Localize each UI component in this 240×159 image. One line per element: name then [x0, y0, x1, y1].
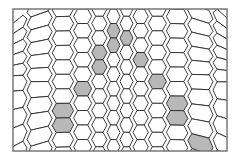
lattice-cell	[120, 103, 133, 118]
lattice-cell	[74, 96, 92, 111]
lattice-cell	[74, 125, 92, 140]
lattice-cell	[133, 0, 148, 9]
lattice-cell	[107, 125, 120, 140]
lattice-cell	[120, 16, 133, 31]
lattice-cell	[27, 67, 52, 81]
lattice-cells	[0, 0, 240, 159]
lattice-cell	[107, 9, 120, 24]
lattice-cell	[166, 53, 187, 68]
shaded-cell	[166, 96, 187, 111]
lattice-cell	[148, 89, 166, 104]
lattice-cell	[92, 147, 107, 159]
lattice-cell	[148, 31, 166, 46]
lattice-cell	[92, 103, 107, 118]
lattice-cell	[166, 140, 187, 155]
lattice-cell	[74, 53, 92, 68]
lattice-cell	[74, 67, 92, 82]
lattice-cell	[120, 147, 133, 159]
shaded-cell	[92, 45, 107, 60]
lattice-cell	[133, 125, 148, 140]
lattice-cell	[92, 132, 107, 147]
lattice-cell	[166, 67, 187, 82]
lattice-cell	[166, 125, 187, 140]
shaded-cell	[107, 38, 120, 53]
lattice-cell	[107, 67, 120, 82]
lattice-cell	[107, 53, 120, 68]
lattice-cell	[74, 9, 92, 24]
shaded-cell	[148, 74, 166, 89]
lattice-cell	[107, 82, 120, 97]
lattice-cell	[107, 154, 120, 159]
lattice-cell	[52, 45, 73, 60]
lattice-cell	[0, 158, 27, 159]
shaded-cell	[52, 103, 73, 118]
lattice-cell	[92, 118, 107, 133]
lattice-cell	[188, 60, 213, 75]
lattice-cell	[133, 82, 148, 97]
lattice-cell	[52, 16, 73, 31]
lattice-cell	[148, 147, 166, 159]
lattice-cell	[52, 132, 73, 147]
lattice-cell	[133, 96, 148, 111]
lattice-cell	[52, 147, 73, 159]
shaded-cell	[107, 24, 120, 39]
lattice-cell	[133, 140, 148, 155]
lattice-cell	[133, 67, 148, 82]
lattice-cell	[166, 154, 187, 159]
lattice-cell	[107, 96, 120, 111]
shaded-cell	[92, 60, 107, 75]
lattice-cell	[148, 118, 166, 133]
lattice-cell	[74, 38, 92, 53]
lattice-cell	[120, 89, 133, 104]
lattice-cell	[52, 74, 73, 89]
lattice-cell	[133, 154, 148, 159]
lattice-cell	[52, 89, 73, 104]
lattice-cell	[27, 53, 52, 68]
lattice-cell	[120, 45, 133, 60]
lattice-cell	[92, 31, 107, 46]
lattice-cell	[120, 74, 133, 89]
lattice-cell	[166, 38, 187, 53]
lattice-cell	[166, 24, 187, 39]
lattice-cell	[133, 9, 148, 24]
lattice-cell	[27, 156, 52, 159]
lattice-diagram	[0, 0, 240, 159]
lattice-cell	[133, 38, 148, 53]
shaded-cell	[74, 82, 92, 97]
lattice-cell	[74, 0, 92, 9]
lattice-cell	[92, 74, 107, 89]
cell-lattice-figure	[0, 0, 240, 159]
lattice-cell	[166, 9, 187, 24]
lattice-cell	[92, 16, 107, 31]
lattice-cell	[120, 118, 133, 133]
lattice-cell	[148, 16, 166, 31]
lattice-cell	[74, 154, 92, 159]
lattice-cell	[188, 74, 213, 89]
lattice-cell	[107, 140, 120, 155]
lattice-cell	[120, 60, 133, 75]
lattice-cell	[166, 82, 187, 97]
shaded-cell	[133, 53, 148, 68]
lattice-cell	[148, 45, 166, 60]
shaded-cell	[166, 111, 187, 126]
lattice-cell	[133, 111, 148, 126]
lattice-cell	[166, 0, 187, 10]
lattice-cell	[133, 24, 148, 39]
lattice-cell	[52, 60, 73, 75]
lattice-cell	[107, 0, 120, 9]
shaded-cell	[52, 118, 73, 133]
lattice-cell	[74, 24, 92, 39]
lattice-cell	[148, 132, 166, 147]
lattice-cell	[107, 111, 120, 126]
lattice-cell	[92, 89, 107, 104]
lattice-cell	[188, 89, 213, 106]
lattice-cell	[74, 140, 92, 155]
shaded-cell	[120, 31, 133, 46]
lattice-cell	[52, 31, 73, 46]
lattice-cell	[148, 103, 166, 118]
lattice-cell	[27, 82, 52, 98]
lattice-cell	[120, 132, 133, 147]
lattice-cell	[74, 111, 92, 126]
lattice-cell	[148, 60, 166, 75]
